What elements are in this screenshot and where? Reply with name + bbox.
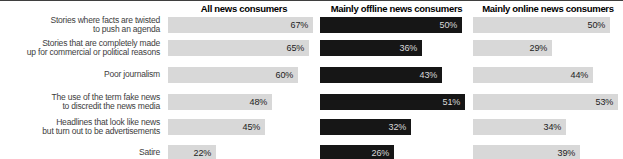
bar-value-label: 48% [250, 97, 272, 107]
bar: 22% [168, 145, 216, 159]
column-header-mainly-offline-news-consumers: Mainly offline news consumers [320, 3, 473, 14]
bar: 32% [320, 119, 411, 135]
chart-row: Satire22%26%39% [0, 145, 623, 159]
bar-value-label: 36% [400, 43, 422, 53]
bar: 51% [320, 94, 465, 110]
chart-row: Poor journalism60%43%44% [0, 67, 623, 83]
category-label: Satire [0, 148, 168, 158]
bar-value-label: 67% [291, 20, 313, 30]
bar-value-label: 29% [530, 43, 552, 53]
panel-cell: 36% [320, 40, 473, 56]
category-label: Stories that are completely madeup for c… [0, 39, 168, 58]
bar-value-label: 50% [440, 20, 462, 30]
bar: 53% [473, 94, 618, 110]
panel-cell: 43% [320, 67, 473, 83]
panel-cell: 67% [168, 17, 320, 33]
panel-cell: 32% [320, 119, 473, 135]
bar-value-label: 34% [544, 122, 566, 132]
bar: 34% [473, 119, 566, 135]
bar-value-label: 51% [443, 97, 465, 107]
category-label-spacer [0, 3, 168, 14]
bar: 65% [168, 40, 309, 56]
category-label: The use of the term fake newsto discredi… [0, 93, 168, 112]
panel-cell: 50% [473, 17, 623, 33]
bar-value-label: 60% [276, 70, 298, 80]
panel-cell: 22% [168, 145, 320, 159]
bar-value-label: 39% [558, 148, 580, 158]
bar-value-label: 53% [596, 97, 618, 107]
column-header-mainly-online-news-consumers: Mainly online news consumers [473, 3, 623, 14]
panel-cell: 65% [168, 40, 320, 56]
category-label: Headlines that look like newsbut turn ou… [0, 118, 168, 137]
bar: 67% [168, 17, 313, 33]
panel-cell: 45% [168, 119, 320, 135]
bar-value-label: 50% [588, 20, 610, 30]
panel-cell: 29% [473, 40, 623, 56]
column-header-all-news-consumers: All news consumers [168, 3, 320, 14]
bar-value-label: 44% [571, 70, 593, 80]
bar: 36% [320, 40, 422, 56]
fake-news-types-bar-chart: All news consumers Mainly offline news c… [0, 0, 623, 159]
chart-row: Stories that are completely madeup for c… [0, 40, 623, 56]
bar-value-label: 22% [194, 148, 216, 158]
bar-value-label: 32% [389, 122, 411, 132]
column-headers: All news consumers Mainly offline news c… [0, 1, 623, 14]
panel-cell: 53% [473, 94, 623, 110]
bar: 50% [473, 17, 610, 33]
panel-cell: 51% [320, 94, 473, 110]
category-label: Poor journalism [0, 70, 168, 80]
panel-cell: 34% [473, 119, 623, 135]
bar: 45% [168, 119, 265, 135]
category-label: Stories where facts are twistedto push a… [0, 16, 168, 35]
panel-cell: 48% [168, 94, 320, 110]
panel-cell: 44% [473, 67, 623, 83]
bar: 60% [168, 67, 298, 83]
panel-cell: 26% [320, 145, 473, 159]
bar-value-label: 45% [243, 122, 265, 132]
chart-rows: Stories where facts are twistedto push a… [0, 17, 623, 159]
panel-cell: 50% [320, 17, 473, 33]
panel-cell: 39% [473, 145, 623, 159]
bar-value-label: 26% [372, 148, 394, 158]
bar: 48% [168, 94, 272, 110]
bar: 50% [320, 17, 462, 33]
chart-row: Headlines that look like newsbut turn ou… [0, 119, 623, 135]
bar: 29% [473, 40, 552, 56]
bar: 26% [320, 145, 394, 159]
chart-row: Stories where facts are twistedto push a… [0, 17, 623, 33]
bar: 43% [320, 67, 442, 83]
bar: 44% [473, 67, 593, 83]
bar-value-label: 43% [420, 70, 442, 80]
bar-value-label: 65% [287, 43, 309, 53]
chart-row: The use of the term fake newsto discredi… [0, 94, 623, 110]
panel-cell: 60% [168, 67, 320, 83]
bar: 39% [473, 145, 580, 159]
